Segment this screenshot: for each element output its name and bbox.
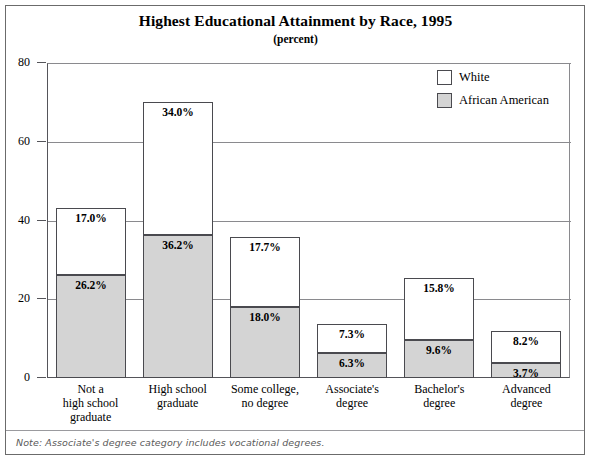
bar-segment-white: 17.0% — [56, 208, 126, 275]
y-tick-label-40: 40 — [4, 214, 30, 226]
bar-value-label: 8.2% — [492, 335, 560, 348]
bar-group: 17.0%26.2% — [56, 208, 126, 378]
legend-item-white[interactable]: White — [437, 70, 549, 85]
chart-figure: Highest Educational Attainment by Race, … — [0, 0, 591, 465]
footnote-body: Associate's degree category includes voc… — [42, 437, 324, 448]
y-tick-80 — [37, 62, 46, 63]
x-axis-label-line: High school — [134, 382, 221, 396]
x-axis-label-line: graduate — [134, 396, 221, 410]
bar-value-label: 7.3% — [318, 328, 386, 341]
bar-segment-white: 8.2% — [491, 331, 561, 363]
y-tick-label-20: 20 — [4, 292, 30, 304]
y-tick-60 — [37, 141, 46, 142]
gridline-60 — [48, 142, 571, 143]
bar-group: 34.0%36.2% — [143, 102, 213, 378]
legend-label: White — [459, 70, 490, 85]
bar-segment-african-american: 18.0% — [230, 307, 300, 378]
gridline-20 — [48, 299, 571, 300]
legend-label: African American — [459, 93, 549, 108]
gridline-40 — [48, 221, 571, 222]
x-axis-label-line: graduate — [47, 410, 134, 424]
bar-segment-white: 34.0% — [143, 102, 213, 236]
bar-value-label: 9.6% — [405, 344, 473, 357]
bar-group: 7.3%6.3% — [317, 324, 387, 378]
x-axis-label: Bachelor'sdegree — [396, 382, 483, 410]
y-tick-label-0: 0 — [4, 371, 30, 383]
bar-segment-african-american: 26.2% — [56, 275, 126, 378]
bar-value-label: 17.0% — [57, 212, 125, 225]
bar-segment-african-american: 9.6% — [404, 340, 474, 378]
bar-segment-african-american: 6.3% — [317, 353, 387, 378]
white-swatch-icon — [437, 70, 452, 85]
bar-value-label: 17.7% — [231, 241, 299, 254]
legend-item-african-american[interactable]: African American — [437, 93, 549, 108]
x-axis-label: High schoolgraduate — [134, 382, 221, 410]
x-axis-label-line: high school — [47, 396, 134, 410]
y-tick-0 — [37, 377, 46, 378]
bar-group: 15.8%9.6% — [404, 278, 474, 378]
bar-segment-white: 15.8% — [404, 278, 474, 340]
bar-segment-white: 17.7% — [230, 237, 300, 307]
footnote-divider — [6, 430, 584, 431]
bar-value-label: 6.3% — [318, 357, 386, 370]
bar-value-label: 3.7% — [492, 367, 560, 380]
x-axis-label: Not ahigh schoolgraduate — [47, 382, 134, 424]
x-axis-label-line: Advanced — [483, 382, 570, 396]
x-axis-label-line: degree — [309, 396, 396, 410]
chart-footnote: Note: Associate's degree category includ… — [16, 437, 325, 448]
x-axis-label: Some college,no degree — [221, 382, 308, 410]
y-tick-label-80: 80 — [4, 56, 30, 68]
x-axis-label-line: Not a — [47, 382, 134, 396]
bar-value-label: 15.8% — [405, 282, 473, 295]
bar-segment-african-american: 36.2% — [143, 235, 213, 378]
x-axis-label-line: Associate's — [309, 382, 396, 396]
bar-segment-white: 7.3% — [317, 324, 387, 353]
bar-segment-african-american: 3.7% — [491, 363, 561, 378]
x-axis-label: Associate'sdegree — [309, 382, 396, 410]
x-axis-label-line: no degree — [221, 396, 308, 410]
y-tick-40 — [37, 220, 46, 221]
gray-swatch-icon — [437, 93, 452, 108]
chart-title: Highest Educational Attainment by Race, … — [0, 12, 591, 30]
x-axis-label-line: degree — [396, 396, 483, 410]
bar-value-label: 26.2% — [57, 279, 125, 292]
bar-value-label: 18.0% — [231, 311, 299, 324]
footnote-prefix: Note: — [16, 437, 42, 448]
x-axis-label-line: Some college, — [221, 382, 308, 396]
x-axis-label-line: Bachelor's — [396, 382, 483, 396]
bar-value-label: 36.2% — [144, 239, 212, 252]
bar-group: 8.2%3.7% — [491, 331, 561, 378]
y-tick-label-60: 60 — [4, 135, 30, 147]
x-axis-label: Advanceddegree — [483, 382, 570, 410]
gridline-80 — [48, 63, 571, 64]
y-tick-20 — [37, 298, 46, 299]
bar-value-label: 34.0% — [144, 106, 212, 119]
bar-group: 17.7%18.0% — [230, 237, 300, 378]
chart-legend: WhiteAfrican American — [437, 70, 549, 116]
chart-subtitle: (percent) — [0, 33, 591, 45]
x-axis-label-line: degree — [483, 396, 570, 410]
